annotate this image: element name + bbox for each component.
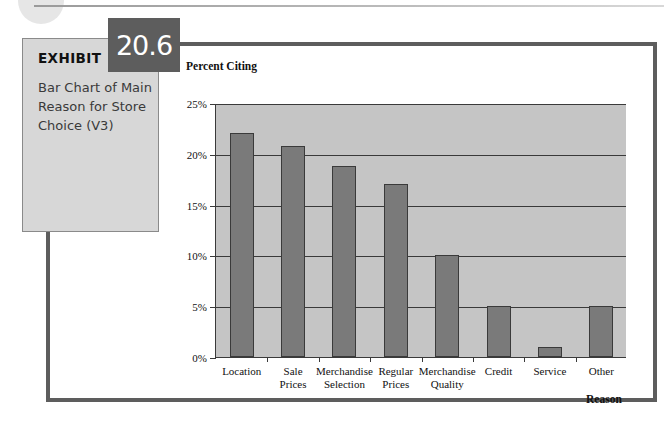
x-axis-tick — [370, 357, 371, 362]
frame-top-border — [176, 42, 657, 46]
x-axis-tick-label: Merchandise Quality — [419, 365, 476, 391]
x-axis-tick-label: Merchandise Selection — [316, 365, 373, 391]
x-axis-tick — [473, 357, 474, 362]
x-axis-tick-label: Regular Prices — [378, 365, 413, 391]
bar — [384, 184, 408, 357]
y-axis-tick — [210, 104, 216, 105]
y-axis-tick — [210, 256, 216, 257]
x-axis-tick-label: Other — [589, 365, 614, 378]
bar — [487, 306, 511, 357]
y-axis-tick-label: 0% — [192, 352, 207, 364]
y-axis-tick — [210, 307, 216, 308]
decorative-rule — [34, 5, 664, 7]
bar — [230, 133, 254, 357]
y-axis-tick — [210, 155, 216, 156]
bar-chart: Percent Citing 0%5%10%15%20%25%LocationS… — [186, 60, 656, 400]
y-axis-title: Percent Citing — [186, 60, 257, 72]
y-axis-tick-label: 5% — [192, 301, 207, 313]
x-axis-tick — [524, 357, 525, 362]
x-axis-tick-label: Credit — [485, 365, 513, 378]
x-axis-tick — [319, 357, 320, 362]
y-axis-tick — [210, 358, 216, 359]
x-axis-tick-label: Sale Prices — [280, 365, 307, 391]
bar — [332, 166, 356, 357]
y-axis-tick-label: 10% — [187, 250, 207, 262]
y-axis-tick-label: 25% — [187, 98, 207, 110]
y-axis-tick-label: 20% — [187, 149, 207, 161]
gridline — [216, 256, 626, 257]
plot-area: 0%5%10%15%20%25%LocationSale PricesMerch… — [215, 104, 626, 358]
exhibit-caption: Bar Chart of Main Reason for Store Choic… — [38, 78, 153, 135]
x-axis-tick — [267, 357, 268, 362]
exhibit-number-badge: 20.6 — [108, 18, 180, 72]
decorative-circle — [18, 0, 64, 24]
x-axis-tick-label: Location — [222, 365, 261, 378]
frame-left-border — [46, 232, 50, 402]
gridline — [216, 307, 626, 308]
x-axis-tick — [422, 357, 423, 362]
bar — [435, 255, 459, 357]
gridline — [216, 104, 626, 105]
bar — [589, 306, 613, 357]
gridline — [216, 155, 626, 156]
x-axis-tick — [576, 357, 577, 362]
bar — [281, 146, 305, 357]
x-axis-title: Reason — [586, 393, 622, 405]
bar — [538, 347, 562, 357]
gridline — [216, 206, 626, 207]
y-axis-tick — [210, 206, 216, 207]
y-axis-tick-label: 15% — [187, 200, 207, 212]
x-axis-tick-label: Service — [533, 365, 566, 378]
exhibit-label: EXHIBIT — [38, 50, 101, 66]
